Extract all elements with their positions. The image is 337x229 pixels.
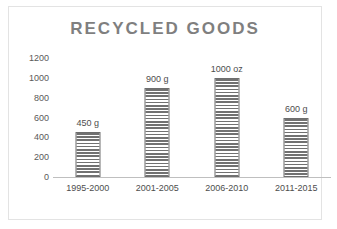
x-axis-tick-label: 2006-2010 (205, 183, 248, 193)
bar[interactable] (214, 78, 239, 177)
y-axis-tick-label: 600 (9, 113, 49, 123)
x-axis-tick-label: 1995-2000 (66, 183, 109, 193)
bar[interactable] (145, 88, 170, 177)
chart-frame: RECYCLED GOODS 120010008006004002000 450… (8, 6, 322, 220)
bar-value-label: 450 g (76, 118, 99, 128)
bar-value-label: 900 g (146, 74, 169, 84)
bar-group: 450 g (53, 58, 123, 177)
x-axis-tick-label: 2001-2005 (136, 183, 179, 193)
y-axis-tick-label: 400 (9, 132, 49, 142)
y-axis: 120010008006004002000 (9, 58, 49, 177)
plot-area: 450 g900 g1000 oz600 g (53, 58, 331, 177)
chart-title: RECYCLED GOODS (9, 19, 321, 39)
x-axis-tick-label: 2011-2015 (275, 183, 317, 193)
y-axis-tick-label: 200 (9, 152, 49, 162)
bar[interactable] (284, 118, 309, 178)
y-axis-tick-label: 1000 (9, 73, 49, 83)
y-axis-tick-label: 0 (9, 172, 49, 182)
bar-value-label: 600 g (285, 104, 308, 114)
bar-group: 600 g (262, 58, 332, 177)
bar[interactable] (75, 132, 100, 177)
bar-value-label: 1000 oz (211, 64, 243, 74)
x-axis: 1995-20002001-20052006-20102011-2015 (53, 183, 331, 199)
bar-group: 1000 oz (192, 58, 262, 177)
bar-group: 900 g (123, 58, 193, 177)
y-axis-tick-label: 1200 (9, 53, 49, 63)
x-axis-baseline (53, 177, 331, 178)
y-axis-tick-label: 800 (9, 93, 49, 103)
